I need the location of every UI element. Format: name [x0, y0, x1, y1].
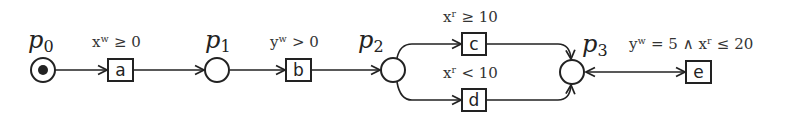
transition-label-c: c — [462, 33, 486, 55]
arc-p2-c — [397, 44, 461, 58]
guard-e: yʷ = 5 ∧ xʳ ≤ 20 — [629, 35, 753, 53]
guard-c: xʳ ≥ 10 — [443, 8, 498, 26]
arc-c-p3 — [487, 44, 571, 59]
place-p3 — [560, 60, 584, 84]
place-label-p3: p3 — [582, 30, 608, 60]
guard-a: xʷ ≥ 0 — [92, 33, 141, 51]
token-icon — [38, 65, 48, 75]
guard-b: yʷ > 0 — [270, 33, 319, 51]
transition-label-a: a — [108, 59, 133, 81]
place-p1 — [205, 58, 229, 82]
arc-d-p3 — [487, 85, 571, 100]
transition-label-b: b — [286, 59, 311, 81]
place-label-p0: p0 — [28, 26, 54, 56]
transition-label-d: d — [462, 89, 486, 111]
arc-p2-d — [397, 82, 461, 100]
transition-label-e: e — [686, 61, 711, 83]
place-label-p2: p2 — [358, 26, 384, 56]
place-p2 — [381, 58, 405, 82]
guard-d: xʳ < 10 — [443, 64, 498, 82]
place-label-p1: p1 — [205, 26, 231, 56]
